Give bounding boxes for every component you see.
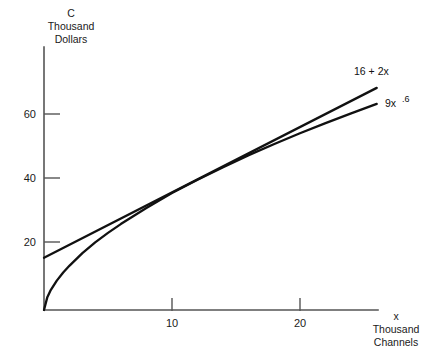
y-tick-label-40: 40 <box>24 172 36 184</box>
y-axis-title-line2: Thousand <box>48 20 95 32</box>
x-axis-title-line1: x <box>393 310 399 322</box>
cost-comparison-chart: 20 40 60 10 20 16 + 2x 9x .6 C Thousand … <box>0 0 441 358</box>
curve-label-power-base: 9x <box>385 97 397 109</box>
x-axis-title-line3: Channels <box>374 336 418 348</box>
y-tick-label-20: 20 <box>24 236 36 248</box>
y-axis-title-line3: Dollars <box>55 33 88 45</box>
y-axis-title-line1: C <box>67 7 75 19</box>
x-axis-title-line2: Thousand <box>373 323 420 335</box>
x-tick-label-10: 10 <box>166 317 178 329</box>
y-tick-label-60: 60 <box>24 108 36 120</box>
x-tick-label-20: 20 <box>294 317 306 329</box>
curve-label-power-exponent: .6 <box>402 94 410 104</box>
curve-label-linear: 16 + 2x <box>354 65 389 77</box>
chart-background <box>0 0 441 358</box>
